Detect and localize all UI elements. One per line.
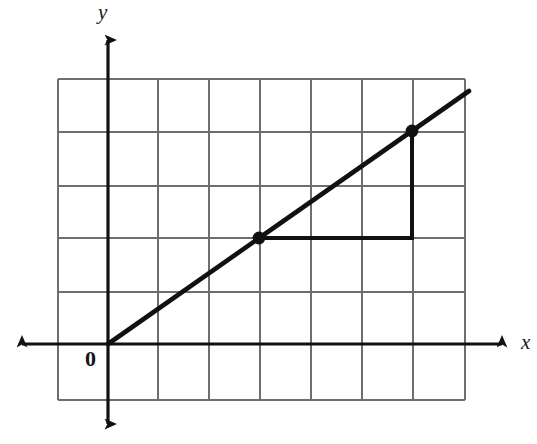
data-point-b[interactable] <box>406 125 419 138</box>
coordinate-graph-figure: y x 0 <box>0 0 537 444</box>
graph-canvas <box>0 0 537 444</box>
data-point-a[interactable] <box>253 232 266 245</box>
origin-label: 0 <box>85 348 96 370</box>
x-axis-label: x <box>521 332 530 353</box>
y-axis-label: y <box>98 2 107 23</box>
